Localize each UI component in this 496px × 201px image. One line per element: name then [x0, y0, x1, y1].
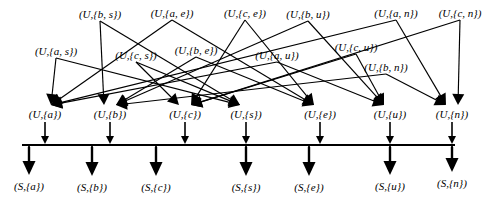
node-label-s-b: (S,{b}): [77, 181, 107, 193]
node-label-u-an: (U,{a, n}): [374, 7, 417, 19]
node-label-u-ae: (U,{a, e}): [151, 7, 194, 19]
node-label-u-s: (U,{s}): [230, 108, 261, 120]
node-label-s-n: (S,{n}): [437, 177, 467, 189]
node-label-s-e: (S,{e}): [294, 181, 323, 193]
node-label-s-s: (S,{s}): [232, 181, 261, 193]
node-label-u-bu: (U,{b, u}): [286, 8, 329, 20]
node-label-u-n: (U,{n}): [436, 108, 468, 120]
node-label-u-cs: (U,{c, s}): [115, 49, 156, 61]
node-label-s-c: (S,{c}): [141, 181, 170, 193]
node-label-u-au: (U,{a, u}): [255, 49, 298, 61]
node-label-u-a: (U,{a}): [29, 108, 61, 120]
node-label-u-bs: (U,{b, s}): [79, 8, 121, 20]
node-label-u-cn: (U,{c, n}): [439, 7, 482, 19]
node-label-s-u: (S,{u}): [375, 180, 405, 192]
node-label-u-b: (U,{b}): [94, 108, 126, 120]
node-label-s-a: (S,{a}): [14, 180, 44, 192]
node-label-u-bn: (U,{b, n}): [364, 61, 407, 73]
diagram-edges: [0, 0, 496, 201]
node-label-u-u: (U,{u}): [374, 108, 406, 120]
diagram-canvas: (U,{b, s}) (U,{a, e}) (U,{c, e}) (U,{b, …: [0, 0, 496, 201]
node-label-u-e: (U,{e}): [304, 108, 336, 120]
node-label-u-cu: (U,{c, u}): [335, 41, 378, 53]
node-label-u-be: (U,{b, e}): [175, 44, 218, 56]
node-label-u-ce: (U,{c, e}): [224, 7, 266, 19]
node-label-u-as: (U,{a, s}): [35, 45, 77, 57]
node-label-u-c: (U,{c}): [169, 108, 201, 120]
